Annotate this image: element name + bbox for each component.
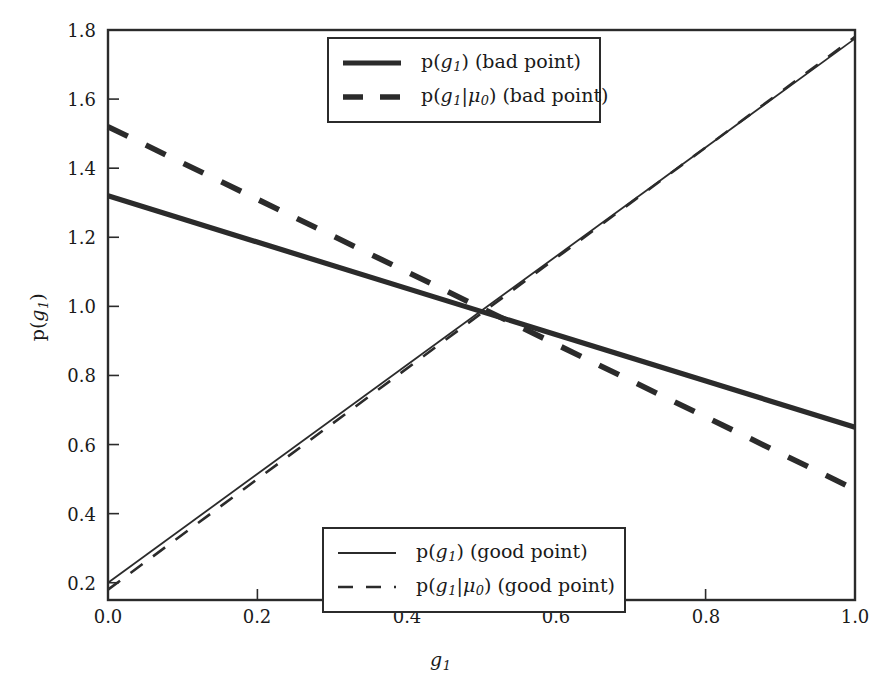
- x-axis-label-sub: 1: [443, 658, 451, 673]
- legend-label-cond-sub: 0: [476, 583, 484, 598]
- x-axis-label-var: g: [430, 648, 442, 670]
- legend-label-bad-dashed: p(g1|μ0) (bad point): [421, 86, 608, 109]
- legend-label-var: g: [441, 84, 453, 106]
- y-tick-label-0: 0.2: [26, 572, 96, 593]
- y-tick-label-6: 1.4: [26, 158, 96, 179]
- legend-item-good-dashed: p(g1|μ0) (good point): [336, 570, 610, 604]
- x-tick-label-5: 1.0: [841, 606, 870, 627]
- legend-label-cond-var: μ: [463, 574, 475, 596]
- legend-line-solid-thin-icon: [336, 542, 398, 564]
- y-axis-label-suffix: ): [26, 293, 48, 300]
- legend-item-good-solid: p(g1) (good point): [336, 536, 610, 570]
- legend-label-suffix: ) (bad point): [489, 84, 609, 106]
- x-tick-label-1: 0.2: [243, 606, 272, 627]
- y-tick-label-7: 1.6: [26, 89, 96, 110]
- legend-label-prefix: p(: [421, 50, 441, 72]
- legend-line-dashed-thick-icon: [341, 86, 403, 108]
- y-axis-label-sub: 1: [35, 301, 50, 309]
- legend-label-prefix: p(: [421, 84, 441, 106]
- x-axis-label: g1: [0, 648, 881, 673]
- y-tick-label-2: 0.6: [26, 434, 96, 455]
- y-tick-label-1: 0.4: [26, 503, 96, 524]
- y-axis-label: p(g1): [26, 257, 51, 377]
- x-tick-label-4: 0.8: [692, 606, 721, 627]
- figure-canvas: 0.0 0.2 0.4 0.6 0.8 1.0 0.2 0.4 0.6 0.8 …: [0, 0, 881, 685]
- y-axis-label-var: g: [26, 310, 48, 322]
- y-tick-label-8: 1.8: [26, 20, 96, 41]
- legend-label-bad-solid: p(g1) (bad point): [421, 52, 581, 75]
- legend-label-var: g: [441, 50, 453, 72]
- legend-item-bad-solid: p(g1) (bad point): [341, 46, 585, 80]
- legend-label-var: g: [436, 574, 448, 596]
- legend-label-prefix: p(: [416, 540, 436, 562]
- y-tick-label-5: 1.2: [26, 227, 96, 248]
- legend-line-dashed-thin-icon: [336, 576, 398, 598]
- legend-label-cond-sub: 0: [481, 93, 489, 108]
- legend-label-good-dashed: p(g1|μ0) (good point): [416, 576, 615, 599]
- legend-label-suffix: ) (good point): [484, 574, 615, 596]
- legend-label-var: g: [436, 540, 448, 562]
- legend-bad-point: p(g1) (bad point) p(g1|μ0) (bad point): [327, 37, 601, 123]
- y-axis-label-prefix: p(: [26, 322, 48, 342]
- legend-good-point: p(g1) (good point) p(g1|μ0) (good point): [322, 527, 626, 613]
- legend-label-suffix: ) (bad point): [461, 50, 581, 72]
- legend-item-bad-dashed: p(g1|μ0) (bad point): [341, 80, 585, 114]
- x-tick-label-0: 0.0: [94, 606, 123, 627]
- legend-label-cond-var: μ: [468, 84, 480, 106]
- legend-label-prefix: p(: [416, 574, 436, 596]
- legend-label-good-solid: p(g1) (good point): [416, 542, 588, 565]
- legend-line-solid-thick-icon: [341, 52, 403, 74]
- legend-label-suffix: ) (good point): [456, 540, 587, 562]
